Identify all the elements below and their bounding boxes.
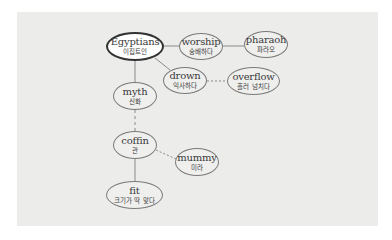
node-egyptians-en: Egyptians bbox=[111, 37, 160, 47]
node-myth-en: myth bbox=[123, 87, 148, 97]
node-mummy-en: mummy bbox=[177, 153, 217, 163]
node-mummy-ko: 미라 bbox=[191, 165, 203, 172]
node-mummy: mummy 미라 bbox=[175, 148, 219, 176]
node-overflow-ko: 흘러 넘치다 bbox=[237, 84, 269, 91]
edge-egyptians-drown bbox=[155, 58, 170, 70]
node-pharaoh: pharaoh 파라오 bbox=[244, 31, 288, 58]
node-pharaoh-en: pharaoh bbox=[246, 35, 287, 45]
node-fit-ko: 크기가 딱 맞다 bbox=[114, 198, 154, 205]
node-drown-ko: 익사하다 bbox=[173, 83, 197, 90]
node-overflow: overflow 흘러 넘치다 bbox=[227, 67, 280, 95]
node-worship: worship 숭배하다 bbox=[179, 33, 223, 60]
node-pharaoh-ko: 파라오 bbox=[257, 47, 275, 54]
node-drown: drown 익사하다 bbox=[163, 67, 207, 94]
node-drown-en: drown bbox=[169, 71, 200, 81]
node-coffin-ko: 관 bbox=[132, 148, 138, 155]
node-coffin-en: coffin bbox=[121, 136, 148, 146]
node-egyptians-ko: 이집트인 bbox=[123, 49, 147, 56]
node-fit-en: fit bbox=[129, 186, 139, 196]
node-coffin: coffin 관 bbox=[113, 131, 157, 159]
diagram-canvas: Egyptians 이집트인 worship 숭배하다 pharaoh 파라오 … bbox=[0, 0, 392, 240]
node-myth-ko: 신화 bbox=[129, 99, 141, 106]
edge-coffin-mummy bbox=[156, 150, 176, 159]
node-egyptians: Egyptians 이집트인 bbox=[106, 32, 164, 61]
node-myth: myth 신화 bbox=[113, 82, 157, 110]
node-worship-ko: 숭배하다 bbox=[189, 49, 213, 56]
node-worship-en: worship bbox=[181, 37, 220, 47]
node-fit: fit 크기가 딱 맞다 bbox=[106, 181, 163, 209]
node-overflow-en: overflow bbox=[232, 72, 274, 82]
